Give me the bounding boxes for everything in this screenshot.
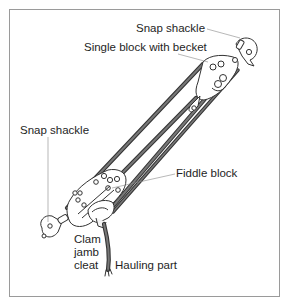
label-clam-jamb-cleat: Clam jamb cleat [74,233,101,272]
label-snap-shackle-top: Snap shackle [136,22,205,35]
leader-snap-shackle-top [207,29,240,38]
label-single-block: Single block with becket [84,41,207,54]
snap-shackle-left-icon [41,214,69,238]
label-hauling-part: Hauling part [115,259,177,272]
label-cleat-line3: cleat [74,259,101,272]
leader-single-block [178,54,208,62]
label-cleat-line2: jamb [74,246,101,259]
snap-shackle-top-icon [236,38,257,66]
single-block-icon [189,55,238,112]
hauling-part-rope [104,224,112,276]
clam-cleat-icon [88,200,114,228]
label-cleat-line1: Clam [74,233,101,246]
label-snap-shackle-left: Snap shackle [20,124,89,137]
label-fiddle-block: Fiddle block [176,167,237,180]
